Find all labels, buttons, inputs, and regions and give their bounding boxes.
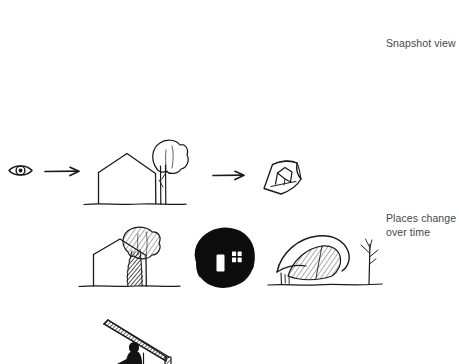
- diagram-canvas: Snapshot view: [0, 0, 459, 364]
- row-places-change: Places change over time: [0, 88, 459, 176]
- row-engagement: They mean something when we engage with …: [0, 176, 459, 274]
- caption-snapshot-view: Snapshot view: [386, 37, 456, 51]
- row-speaking-sketch: [0, 274, 459, 364]
- row-speaking: They speak to us: [0, 274, 459, 364]
- row-snapshot-view: Snapshot view: [0, 0, 459, 88]
